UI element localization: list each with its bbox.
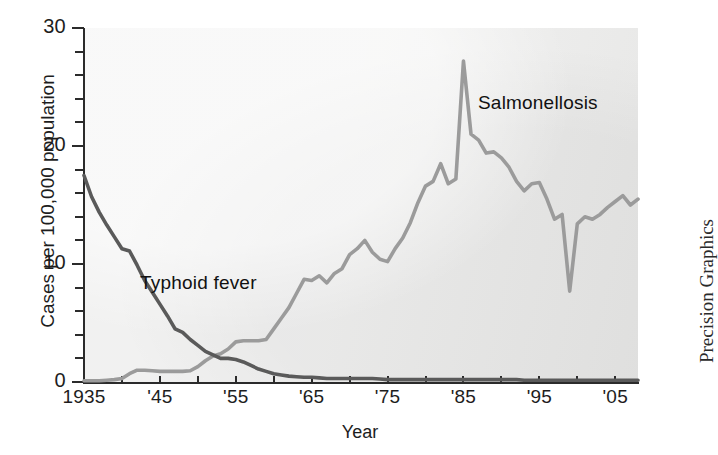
credit-text: Precision Graphics bbox=[696, 176, 718, 406]
series-annotation-typhoid: Typhoid fever bbox=[140, 272, 257, 294]
y-axis-title: Cases per 100,000 population bbox=[37, 61, 59, 341]
series-annotation-salmonellosis: Salmonellosis bbox=[478, 92, 598, 114]
x-axis-title: Year bbox=[280, 422, 440, 443]
